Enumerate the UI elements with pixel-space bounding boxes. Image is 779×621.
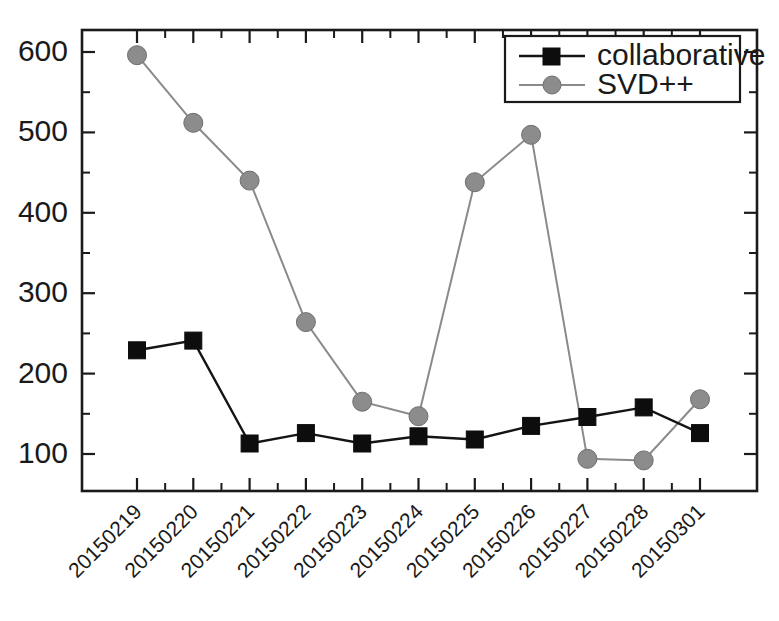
data-point: [466, 431, 483, 448]
y-tick-label-200: 200: [18, 356, 68, 389]
data-point: [692, 425, 709, 442]
data-point: [409, 407, 428, 426]
data-point: [128, 46, 147, 65]
data-point: [410, 428, 427, 445]
data-point: [240, 171, 259, 190]
data-point: [185, 332, 202, 349]
legend-marker-square: [543, 48, 560, 65]
data-point: [297, 425, 314, 442]
y-tick-label-600: 600: [18, 34, 68, 67]
data-point: [523, 417, 540, 434]
data-point: [578, 449, 597, 468]
data-point: [579, 409, 596, 426]
data-point: [634, 451, 653, 470]
y-tick-label-300: 300: [18, 275, 68, 308]
y-tick-label-400: 400: [18, 195, 68, 228]
data-point: [241, 435, 258, 452]
legend-label-svdpp: SVD++: [597, 67, 694, 100]
data-point: [354, 435, 371, 452]
chart-legend: collaborative SVD++: [505, 36, 765, 102]
data-point: [184, 113, 203, 132]
chart-figure: 100200300400500600 201502192015022020150…: [0, 0, 779, 621]
data-point: [691, 390, 710, 409]
data-point: [522, 125, 541, 144]
data-point: [353, 392, 372, 411]
data-point: [129, 342, 146, 359]
y-tick-label-500: 500: [18, 114, 68, 147]
y-tick-label-100: 100: [18, 436, 68, 469]
data-point: [465, 173, 484, 192]
data-point: [635, 399, 652, 416]
legend-marker-circle: [543, 76, 561, 94]
line-chart: 100200300400500600 201502192015022020150…: [0, 0, 779, 621]
data-point: [296, 313, 315, 332]
